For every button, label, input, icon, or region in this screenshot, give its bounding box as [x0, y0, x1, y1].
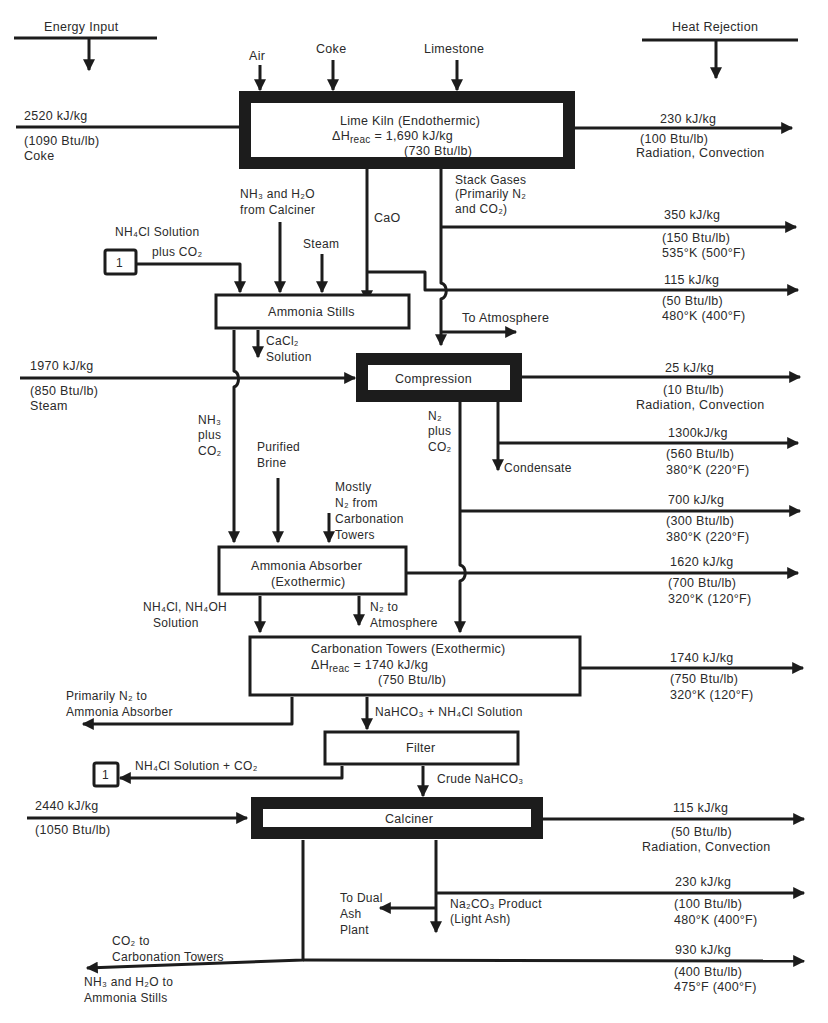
svg-text:1: 1: [102, 768, 109, 782]
svg-text:plus CO₂: plus CO₂: [152, 245, 202, 259]
svg-text:(Primarily N₂: (Primarily N₂: [455, 187, 526, 201]
nh4cl-nh4oh-label: NH₄Cl, NH₄OH: [143, 600, 227, 614]
cacl2-solution-label: CaCl₂: [266, 334, 299, 348]
svg-text:CO₂: CO₂: [428, 440, 452, 454]
svg-text:Ammonia Absorber: Ammonia Absorber: [66, 705, 173, 719]
compression-energy-kj: 1970 kJ/kg: [30, 359, 93, 373]
crude-nahco3-label: Crude NaHCO₃: [437, 772, 524, 786]
energy-input-legend: Energy Input: [14, 20, 157, 70]
filter-title: Filter: [406, 741, 436, 755]
heat-rejection-legend: Heat Rejection: [642, 20, 798, 78]
heat-detail: 480°K (400°F): [662, 309, 745, 323]
svg-text:Carbonation Towers: Carbonation Towers: [112, 950, 224, 964]
heat-detail: Radiation, Convection: [642, 840, 771, 854]
heat-btu: (750 Btu/lb): [670, 672, 738, 686]
heat-detail: 480°K (400°F): [674, 913, 757, 927]
ammonia-absorber-title: Ammonia Absorber: [251, 559, 362, 573]
air-label: Air: [249, 49, 265, 63]
calciner-unit: 2440 kJ/kg (1050 Btu/lb) Calciner 115 kJ…: [27, 799, 804, 1005]
co2-nh3-recycle-stream: [87, 840, 303, 968]
heat-btu: (100 Btu/lb): [674, 897, 742, 911]
carbonation-towers-dh: ΔHreac = 1740 kJ/kg: [311, 658, 428, 674]
heat-kj: 1620 kJ/kg: [670, 555, 733, 569]
svg-text:Solution: Solution: [266, 350, 312, 364]
nh4cl-solution-co2-label: NH₄Cl Solution + CO₂: [135, 759, 258, 773]
heat-btu: (700 Btu/lb): [668, 576, 736, 590]
svg-text:from Calciner: from Calciner: [240, 203, 315, 217]
heat-kj: 25 kJ/kg: [665, 361, 714, 375]
heat-rejection-label: Heat Rejection: [672, 20, 758, 34]
lime-kiln-dh-btu: (730 Btu/lb): [404, 144, 472, 158]
na2co3-product-label: Na₂CO₃ Product: [450, 897, 542, 911]
heat-rejection-arrow: [303, 960, 804, 961]
heat-btu: (560 Btu/lb): [666, 447, 734, 461]
heat-btu: (10 Btu/lb): [663, 383, 724, 397]
heat-kj: 115 kJ/kg: [664, 273, 719, 287]
compression-title: Compression: [395, 372, 472, 386]
svg-text:plus: plus: [428, 424, 451, 438]
svg-text:1: 1: [116, 256, 123, 270]
heat-detail: 475°F (400°F): [674, 980, 757, 994]
svg-text:Plant: Plant: [340, 923, 369, 937]
heat-btu: (150 Btu/lb): [662, 231, 730, 245]
heat-detail: 380°K (220°F): [666, 463, 749, 477]
heat-btu: (100 Btu/lb): [640, 132, 708, 146]
to-dual-ash-label: To Dual: [340, 891, 383, 905]
lime-kiln-title: Lime Kiln (Endothermic): [340, 114, 480, 128]
cao-label: CaO: [374, 211, 401, 225]
svg-text:Towers: Towers: [335, 528, 375, 542]
limestone-label: Limestone: [424, 42, 484, 56]
ammonia-stills-unit: 1 NH₄Cl Solution plus CO₂ NH₃ and H₂O fr…: [105, 187, 409, 364]
heat-kj: 230 kJ/kg: [675, 875, 731, 889]
carbonation-towers-dh-btu: (750 Btu/lb): [378, 673, 446, 687]
svg-text:N₂ from: N₂ from: [335, 496, 378, 510]
compression-unit: 1970 kJ/kg (850 Btu/lb) Steam Compressio…: [20, 359, 800, 413]
svg-text:Brine: Brine: [257, 456, 287, 470]
steam-label: Steam: [303, 237, 339, 251]
heat-kj: 1300kJ/kg: [668, 426, 728, 440]
nahco3-nh4cl-label: NaHCO₃ + NH₄Cl Solution: [375, 705, 523, 719]
kiln-energy-source: Coke: [24, 149, 54, 163]
ammonia-absorber-subtitle: (Exothermic): [271, 575, 345, 589]
coke-label: Coke: [316, 42, 346, 56]
heat-kj: 230 kJ/kg: [660, 112, 716, 126]
ammonia-stills-title: Ammonia Stills: [268, 305, 355, 319]
primarily-n2-label: Primarily N₂ to: [66, 689, 147, 703]
heat-btu: (400 Btu/lb): [674, 965, 742, 979]
svg-text:Ash: Ash: [340, 907, 362, 921]
calciner-energy-kj: 2440 kJ/kg: [35, 799, 98, 813]
carbonation-towers-title: Carbonation Towers (Exothermic): [311, 642, 506, 656]
soda-ash-energy-flow-diagram: Energy Input Heat Rejection Air Coke Lim…: [0, 0, 828, 1023]
heat-btu: (50 Btu/lb): [662, 294, 723, 308]
heat-kj: 1740 kJ/kg: [670, 651, 733, 665]
kiln-energy-kj: 2520 kJ/kg: [24, 109, 87, 123]
svg-text:Atmosphere: Atmosphere: [370, 616, 438, 630]
heat-detail: 535°K (500°F): [662, 246, 745, 260]
calciner-title: Calciner: [385, 812, 433, 826]
stack-gases-label: Stack Gases: [455, 173, 526, 187]
n2-plus-co2-label: N₂: [428, 409, 442, 423]
heat-kj: 350 kJ/kg: [664, 208, 720, 222]
co2-to-carbonation-label: CO₂ to: [112, 934, 150, 948]
svg-text:plus: plus: [198, 428, 221, 442]
nh4cl-recycle-stream: [136, 264, 240, 292]
n2-to-atmosphere-label: N₂ to: [370, 600, 398, 614]
calciner-energy-btu: (1050 Btu/lb): [35, 823, 110, 837]
compression-energy-btu: (850 Btu/lb): [30, 384, 98, 398]
compression-energy-source: Steam: [30, 399, 68, 413]
carbonation-towers-unit: Carbonation Towers (Exothermic) ΔHreac =…: [66, 637, 803, 729]
svg-text:CO₂: CO₂: [198, 444, 222, 458]
svg-text:Carbonation: Carbonation: [335, 512, 404, 526]
mostly-n2-label: Mostly: [335, 480, 371, 494]
nh4cl-plus-co2-label: NH₄Cl Solution: [115, 225, 199, 239]
kiln-energy-btu: (1090 Btu/lb): [24, 134, 99, 148]
svg-text:Solution: Solution: [153, 616, 199, 630]
svg-text:Ammonia Stills: Ammonia Stills: [84, 991, 168, 1005]
heat-btu: (300 Btu/lb): [666, 514, 734, 528]
n2-co2-stream: [460, 402, 465, 632]
purified-brine-label: Purified: [257, 440, 300, 454]
heat-kj: 930 kJ/kg: [675, 943, 731, 957]
heat-kj: 115 kJ/kg: [673, 801, 728, 815]
heat-detail: Radiation, Convection: [636, 398, 765, 412]
heat-detail: 380°K (220°F): [666, 530, 749, 544]
